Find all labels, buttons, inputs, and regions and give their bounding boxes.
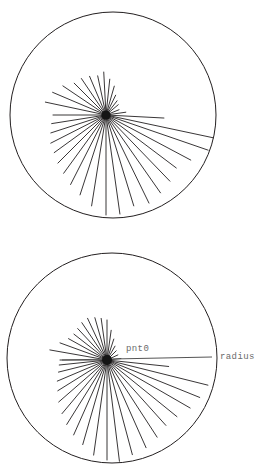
label-pnt0: pnt0 xyxy=(126,344,149,354)
center-point-hub-top xyxy=(101,110,110,119)
label-radius: radius xyxy=(220,352,255,362)
center-point-hub-bottom xyxy=(102,355,112,365)
canvas-background xyxy=(0,0,267,476)
geometry-diagram-canvas: pnt0 radius xyxy=(0,0,267,476)
